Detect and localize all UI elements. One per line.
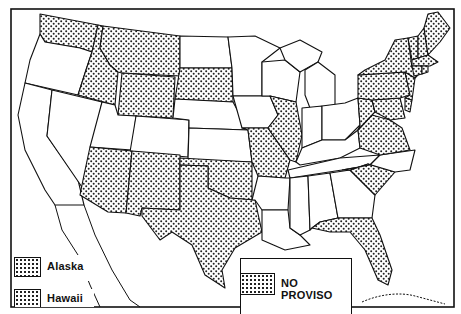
state-delaware [405, 98, 412, 112]
alaska-swatch [14, 257, 41, 277]
no-proviso-swatch [241, 273, 275, 295]
state-rhode-island [422, 66, 428, 74]
no-proviso-label: NO PROVISO [281, 277, 351, 301]
state-connecticut [412, 66, 422, 76]
state-pennsylvania [358, 72, 410, 100]
state-south-dakota [175, 68, 233, 102]
state-michigan-lower [305, 62, 335, 108]
state-new-mexico [126, 151, 180, 216]
hawaii-swatch [14, 289, 41, 307]
state-kansas [188, 128, 252, 162]
hawaii-label: Hawaii [47, 292, 83, 304]
state-arizona [80, 147, 132, 213]
state-north-dakota [180, 36, 232, 68]
legend-alaska: Alaska [14, 255, 94, 281]
legend-no-proviso: NO PROVISO [240, 258, 352, 314]
state-wyoming [118, 73, 175, 118]
state-arkansas [252, 176, 290, 210]
alaska-label: Alaska [47, 260, 84, 272]
state-colorado [130, 116, 189, 157]
cuba-outline [362, 294, 445, 304]
legend-hawaii: Hawaii [14, 289, 94, 307]
state-mississippi [290, 176, 310, 235]
state-maine [424, 12, 450, 55]
